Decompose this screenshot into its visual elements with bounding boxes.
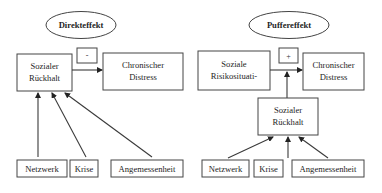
- social-support-moderator-box: Sozialer Rückhalt: [258, 98, 318, 135]
- chronic-distress-box-right: Chronischer Distress: [303, 53, 364, 90]
- effect-diagrams: Direkteffekt - Sozialer Rückhalt Chronis…: [0, 0, 382, 193]
- arrow-crisis-to-support: [52, 93, 86, 157]
- chronic-distress-box-left: Chronischer Distress: [103, 53, 183, 90]
- adequacy-box-right: Angemessenheit: [292, 160, 364, 177]
- buffer-effect-diagram: Puffereffekt + Soziale Risikosituati- Ch…: [198, 12, 364, 178]
- chronic-distress-label-1: Chronischer: [122, 60, 164, 70]
- chronic-distress-label-2: Distress: [320, 72, 348, 82]
- social-support-label-1: Sozialer: [30, 61, 58, 71]
- network-box-left: Netzwerk: [17, 160, 67, 177]
- moderator-label-1: Sozialer: [274, 105, 302, 115]
- crisis-label: Krise: [259, 164, 278, 174]
- minus-sign: -: [86, 51, 89, 60]
- direct-effect-title-ellipse: Direkteffekt: [46, 12, 116, 39]
- network-box-right: Netzwerk: [202, 160, 249, 177]
- adequacy-label: Angemessenheit: [119, 164, 176, 174]
- direct-effect-sign-box: -: [77, 48, 97, 63]
- network-label: Netzwerk: [25, 164, 59, 174]
- network-label: Netzwerk: [209, 164, 243, 174]
- social-risk-label-1: Soziale: [221, 59, 246, 69]
- social-support-label-2: Rückhalt: [29, 73, 61, 83]
- social-risk-label-2: Risikosituati-: [211, 71, 257, 81]
- social-risk-situation-box: Soziale Risikosituati-: [198, 51, 270, 90]
- direct-effect-diagram: Direkteffekt - Sozialer Rückhalt Chronis…: [17, 12, 183, 178]
- arrow-network-to-moderator: [228, 137, 273, 158]
- social-support-box: Sozialer Rückhalt: [17, 54, 72, 91]
- buffer-effect-sign-box: +: [279, 48, 298, 63]
- direct-effect-title: Direkteffekt: [59, 20, 104, 30]
- adequacy-label: Angemessenheit: [300, 164, 357, 174]
- crisis-box-right: Krise: [254, 160, 283, 177]
- arrow-adequacy-to-support: [65, 93, 152, 157]
- crisis-box-left: Krise: [70, 160, 98, 177]
- buffer-effect-title: Puffereffekt: [267, 20, 311, 30]
- adequacy-box-left: Angemessenheit: [111, 160, 183, 177]
- moderator-label-2: Rückhalt: [272, 117, 304, 127]
- chronic-distress-label-2: Distress: [129, 72, 157, 82]
- buffer-effect-title-ellipse: Puffereffekt: [249, 12, 329, 39]
- arrow-adequacy-to-moderator: [299, 137, 328, 158]
- crisis-label: Krise: [75, 164, 94, 174]
- plus-sign: +: [286, 52, 291, 61]
- chronic-distress-label-1: Chronischer: [312, 60, 354, 70]
